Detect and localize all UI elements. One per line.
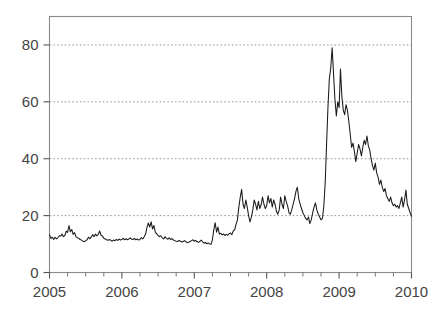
- chart-background: [0, 0, 446, 316]
- x-tick-label-2009: 2009: [322, 283, 355, 300]
- x-tick-label-2008: 2008: [250, 283, 283, 300]
- x-tick-label-2006: 2006: [105, 283, 138, 300]
- x-tick-label-2010: 2010: [395, 283, 428, 300]
- y-tick-label-20: 20: [22, 207, 39, 224]
- chart-container: 020406080 200520062007200820092010: [0, 0, 446, 316]
- y-tick-label-60: 60: [22, 93, 39, 110]
- y-tick-label-40: 40: [22, 150, 39, 167]
- y-tick-label-80: 80: [22, 36, 39, 53]
- y-tick-label-0: 0: [30, 264, 38, 281]
- x-tick-label-2007: 2007: [178, 283, 211, 300]
- x-tick-label-2005: 2005: [33, 283, 66, 300]
- line-chart: 020406080 200520062007200820092010: [0, 0, 446, 316]
